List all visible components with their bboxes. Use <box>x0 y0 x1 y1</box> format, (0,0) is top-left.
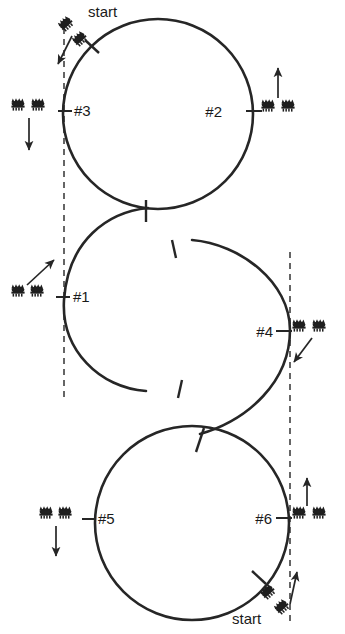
station-5-group: #5 <box>39 506 114 556</box>
station-4-cone-a <box>292 319 305 331</box>
station-6-cone-a <box>292 506 305 518</box>
station-5-cone-b <box>58 506 71 518</box>
station-5-cone-a <box>39 506 52 518</box>
station-1-group: #1 <box>11 260 89 305</box>
station-2-cone-b <box>281 99 294 111</box>
station-1-cone-b <box>30 284 43 296</box>
start-top-label: start <box>88 3 118 20</box>
gap-tick-upper <box>172 240 176 258</box>
junction-tick-bottom <box>196 428 204 452</box>
start-top-cone-b <box>71 30 89 48</box>
start-bottom-direction-arrow <box>290 572 297 604</box>
station-3-cone-b <box>31 98 44 110</box>
start-marker-bottom-group: start <box>232 571 297 627</box>
station-4-direction-arrow <box>294 338 312 362</box>
start-bottom-cross-tick <box>252 571 266 584</box>
course-svg: #3 #2 #1 <box>0 0 345 634</box>
arc-middle-right-path <box>192 240 290 434</box>
station-5-label: #5 <box>98 510 115 527</box>
start-bottom-cone-b <box>273 598 291 616</box>
station-3-cone-a <box>11 98 24 110</box>
station-3-group: #3 <box>11 98 90 150</box>
station-6-cone-b <box>312 506 325 518</box>
station-1-direction-arrow <box>27 260 54 285</box>
station-6-label: #6 <box>255 510 272 527</box>
station-4-label: #4 <box>256 323 273 340</box>
station-1-cone-a <box>11 284 24 296</box>
start-top-cone-a <box>57 15 75 33</box>
start-bottom-label: start <box>232 610 262 627</box>
station-3-label: #3 <box>74 102 91 119</box>
station-2-cone-a <box>261 99 274 111</box>
start-top-direction-arrow <box>58 36 72 64</box>
station-2-label: #2 <box>205 103 222 120</box>
station-1-label: #1 <box>73 288 90 305</box>
gap-tick-lower <box>178 380 182 398</box>
course-diagram: #3 #2 #1 <box>0 0 345 634</box>
station-4-cone-b <box>312 319 325 331</box>
start-bottom-cone-a <box>259 583 277 601</box>
